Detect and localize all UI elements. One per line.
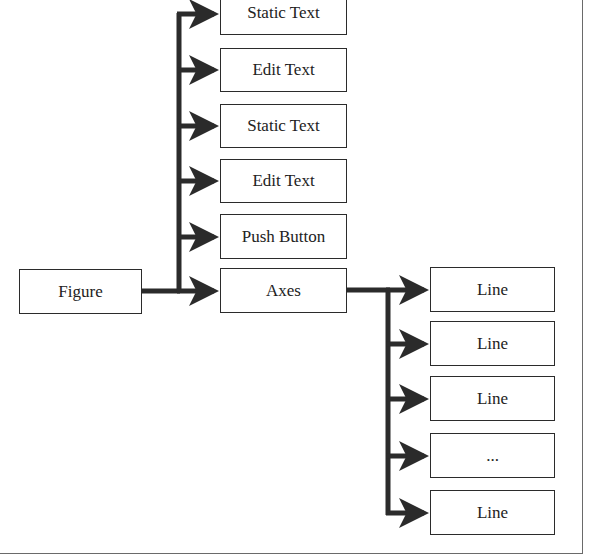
node-line-3: Line bbox=[430, 376, 555, 421]
node-line-2: Line bbox=[430, 321, 555, 366]
node-edit-text-1: Edit Text bbox=[220, 48, 347, 92]
node-ellipsis: ... bbox=[430, 433, 555, 478]
node-line-1: Line bbox=[430, 267, 555, 312]
node-axes: Axes bbox=[220, 268, 347, 313]
node-figure: Figure bbox=[19, 269, 142, 314]
node-push-button: Push Button bbox=[220, 214, 347, 259]
node-line-4: Line bbox=[430, 490, 555, 535]
node-static-text-2: Static Text bbox=[220, 104, 347, 148]
node-edit-text-2: Edit Text bbox=[220, 159, 347, 203]
node-static-text-1: Static Text bbox=[220, 0, 347, 35]
